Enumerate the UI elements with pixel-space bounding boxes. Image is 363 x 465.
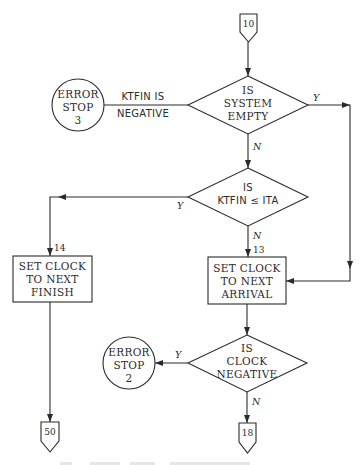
- step-label-14: 14: [54, 243, 66, 253]
- decision-clock-negative: IS CLOCK NEGATIVE: [188, 335, 307, 392]
- arrowhead-down-icon: [245, 68, 251, 76]
- svg-text:TO NEXT: TO NEXT: [26, 273, 78, 285]
- svg-text:ERROR: ERROR: [108, 346, 150, 358]
- edge-label-yes: Y: [175, 349, 183, 360]
- process-next-arrival: SET CLOCK TO NEXT ARRIVAL: [208, 257, 286, 304]
- svg-text:NEGATIVE: NEGATIVE: [216, 368, 277, 380]
- connector-10: 10: [240, 14, 257, 42]
- svg-text:STOP: STOP: [113, 359, 144, 371]
- arrowhead-down-icon: [347, 261, 353, 269]
- svg-text:ARRIVAL: ARRIVAL: [220, 288, 272, 300]
- arrowhead-right-icon: [342, 102, 350, 108]
- arrowhead-down-icon: [47, 248, 53, 256]
- svg-text:ERROR: ERROR: [57, 88, 99, 100]
- svg-text:18: 18: [242, 428, 254, 438]
- process-next-finish: SET CLOCK TO NEXT FINISH: [13, 256, 92, 302]
- svg-text:SYSTEM: SYSTEM: [224, 97, 273, 109]
- svg-text:SET CLOCK: SET CLOCK: [213, 262, 280, 274]
- svg-text:IS: IS: [243, 182, 253, 193]
- arrowhead-left-icon: [286, 278, 294, 284]
- arrowhead-down-icon: [47, 414, 53, 422]
- edge-label-negative: NEGATIVE: [117, 108, 169, 119]
- edge-ktfin-le-ita-yes: [50, 197, 188, 256]
- flowchart: 10 IS SYSTEM EMPTY ERROR STOP 3 KTFIN IS…: [0, 0, 363, 465]
- svg-text:2: 2: [126, 372, 133, 384]
- terminal-error-stop-2: ERROR STOP 2: [103, 337, 155, 389]
- svg-text:FINISH: FINISH: [31, 286, 74, 298]
- arrowhead-left-icon: [155, 360, 163, 366]
- connector-50: 50: [41, 422, 59, 452]
- svg-text:KTFIN ≤ ITA: KTFIN ≤ ITA: [217, 195, 278, 206]
- decision-system-empty: IS SYSTEM EMPTY: [188, 76, 308, 134]
- svg-text:IS: IS: [242, 84, 254, 96]
- svg-text:TO NEXT: TO NEXT: [221, 275, 273, 287]
- arrowhead-down-icon: [245, 160, 251, 168]
- connector-18: 18: [239, 423, 256, 453]
- step-label-13: 13: [253, 245, 265, 255]
- svg-text:EMPTY: EMPTY: [228, 110, 270, 122]
- svg-text:CLOCK: CLOCK: [227, 355, 268, 367]
- edge-label-no: N: [252, 230, 262, 241]
- edge-label-no: N: [251, 396, 261, 407]
- svg-text:3: 3: [75, 114, 82, 126]
- decision-ktfin-le-ita: IS KTFIN ≤ ITA: [188, 168, 308, 226]
- edge-label-ktfin-is: KTFIN IS: [122, 91, 165, 102]
- svg-text:IS: IS: [241, 342, 253, 354]
- arrowhead-left-icon: [58, 194, 66, 200]
- edge-label-yes: Y: [313, 92, 321, 103]
- edge-label-yes: Y: [177, 200, 185, 211]
- svg-text:STOP: STOP: [62, 101, 93, 113]
- edge-label-no: N: [252, 141, 262, 152]
- svg-text:SET CLOCK: SET CLOCK: [19, 260, 86, 272]
- arrowhead-down-icon: [244, 327, 250, 335]
- svg-text:50: 50: [44, 427, 56, 437]
- terminal-error-stop-3: ERROR STOP 3: [52, 79, 104, 131]
- arrowhead-down-icon: [244, 415, 250, 423]
- connector-10-label: 10: [243, 19, 255, 29]
- arrowhead-down-icon: [245, 249, 251, 257]
